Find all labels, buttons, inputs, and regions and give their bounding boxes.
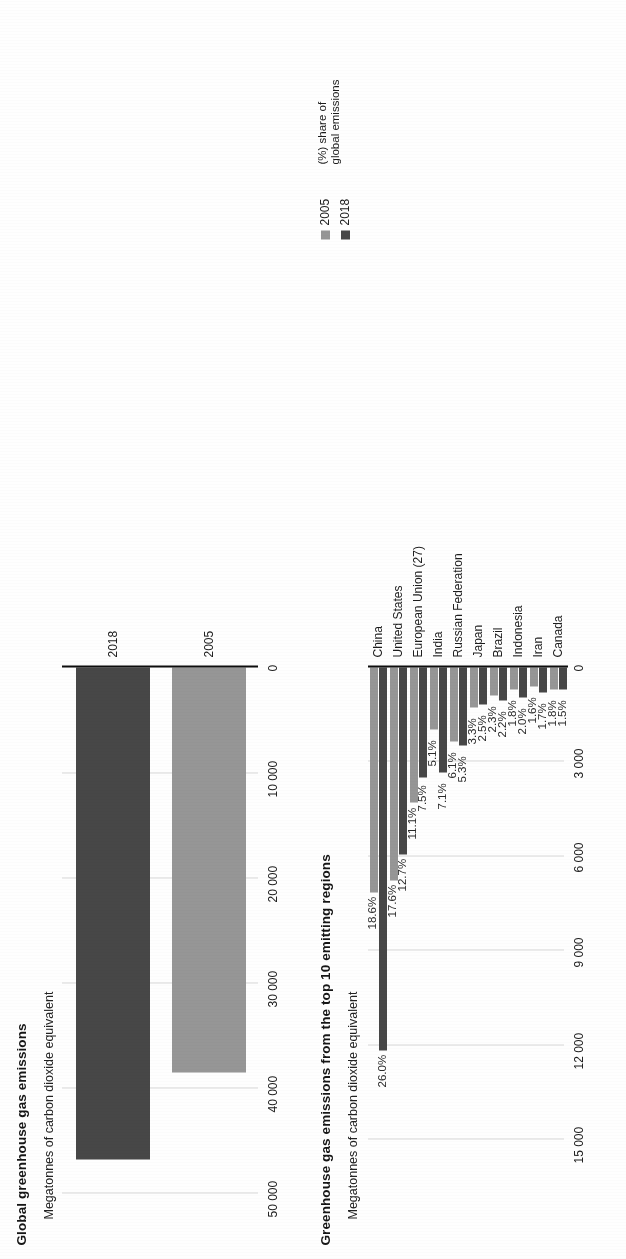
top10-tick-12000: 12 000	[572, 1032, 586, 1069]
global-value-axis	[62, 665, 258, 667]
global-tick-10000: 10 000	[266, 760, 280, 797]
top10-tick-6000: 6 000	[572, 842, 586, 872]
legend-item-2005: 2005	[318, 198, 332, 239]
bar-brazil-2005	[490, 667, 498, 695]
gridline-50000	[62, 1192, 258, 1193]
bar-japan-2005	[470, 667, 478, 707]
bar-brazil-2018	[499, 667, 507, 700]
bar-indonesia-2005	[510, 667, 518, 689]
bar-canada-2005	[550, 667, 558, 689]
category-label-india: India	[431, 631, 445, 657]
bar-european-union-2005	[410, 667, 418, 802]
legend-swatch-2018-icon	[341, 230, 350, 239]
value-label-india-2018: 7.1%	[436, 783, 448, 809]
legend-item-2018: 2018	[338, 198, 352, 239]
legend-label-2005: 2005	[318, 198, 332, 225]
value-label-european-union-2005: 11.1%	[406, 807, 418, 839]
legend-swatch-2005-icon	[321, 230, 330, 239]
share-note-line1: (%) share of	[316, 79, 329, 164]
category-label-indonesia: Indonesia	[511, 605, 525, 657]
global-tick-50000: 50 000	[266, 1180, 280, 1217]
gridline-15000	[368, 1138, 564, 1139]
global-plot-area	[62, 667, 258, 1193]
value-label-china-2018: 26.0%	[376, 1054, 388, 1087]
top10-legend: 2005 2018	[312, 0, 372, 1259]
share-note: (%) share of global emissions	[316, 79, 342, 164]
value-label-russian-federation-2018: 5.3%	[456, 756, 468, 782]
bar-iran-2018	[539, 667, 547, 692]
global-plot: 2018 2005 50 000 40 000 30 000 20 000 10…	[62, 0, 294, 1259]
category-label-european-union: European Union (27)	[411, 546, 425, 657]
global-tick-0: 0	[266, 664, 280, 671]
bar-russian-federation-2005	[450, 667, 458, 741]
category-label-russian-federation: Russian Federation	[451, 553, 465, 657]
bar-iran-2005	[530, 667, 538, 686]
category-label-china: China	[371, 626, 385, 657]
figure-page: Global greenhouse gas emissions Megatonn…	[0, 0, 626, 1259]
category-label-iran: Iran	[531, 636, 545, 657]
bar-united-states-2005	[390, 667, 398, 880]
global-panel-title: Global greenhouse gas emissions	[14, 1023, 29, 1245]
bar-china-2005	[370, 667, 378, 892]
top10-tick-9000: 9 000	[572, 937, 586, 967]
global-axis-title: Megatonnes of carbon dioxide equivalent	[42, 991, 56, 1219]
category-label-japan: Japan	[471, 624, 485, 657]
bar-china-2018	[379, 667, 387, 1050]
bar-japan-2018	[479, 667, 487, 704]
bar-india-2005	[430, 667, 438, 729]
legend-label-2018: 2018	[338, 198, 352, 225]
gridline-12000	[368, 1044, 564, 1045]
value-label-united-states-2018: 12.7%	[396, 858, 408, 891]
category-label-brazil: Brazil	[491, 627, 505, 657]
category-label-united-states: United States	[391, 585, 405, 657]
value-label-canada-2018: 1.5%	[556, 700, 568, 726]
value-label-european-union-2018: 7.5%	[416, 785, 428, 811]
global-tick-40000: 40 000	[266, 1075, 280, 1112]
global-category-2018: 2018	[106, 630, 120, 657]
top10-tick-3000: 3 000	[572, 748, 586, 778]
bar-global-2005	[172, 667, 246, 1072]
panel-global-emissions: Global greenhouse gas emissions Megatonn…	[0, 0, 300, 1259]
bar-canada-2018	[559, 667, 567, 689]
bar-global-2018	[76, 667, 150, 1159]
top10-plot: China United States European Union (27) …	[368, 0, 620, 1259]
top10-tick-15000: 15 000	[572, 1126, 586, 1163]
global-tick-30000: 30 000	[266, 970, 280, 1007]
top10-value-axis	[368, 665, 568, 667]
global-tick-20000: 20 000	[266, 865, 280, 902]
value-label-india-2005: 5.1%	[426, 740, 438, 766]
category-label-canada: Canada	[551, 615, 565, 657]
panel-top10-emitters: Greenhouse gas emissions from the top 10…	[312, 0, 626, 1259]
share-note-line2: global emissions	[329, 79, 342, 164]
gridline-9000	[368, 949, 564, 950]
bar-indonesia-2018	[519, 667, 527, 697]
global-category-2005: 2005	[202, 630, 216, 657]
value-label-china-2005: 18.6%	[366, 896, 378, 929]
top10-tick-0: 0	[572, 664, 586, 671]
